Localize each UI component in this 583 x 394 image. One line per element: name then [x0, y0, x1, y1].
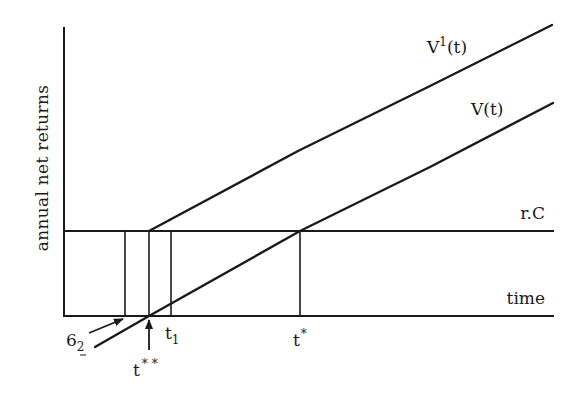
t-one-label: t1	[165, 323, 179, 347]
time-axis-label: time	[507, 288, 545, 308]
v1-curve	[149, 25, 552, 231]
v-curve	[95, 103, 553, 347]
diagram-figure: annual net returns time r.C V1(t) V(t) 6…	[0, 0, 583, 394]
v1-label: V1(t)	[426, 35, 467, 57]
rc-label: r.C	[520, 203, 545, 223]
six-two-label: 62	[66, 330, 84, 354]
six-two-arrow	[89, 319, 123, 333]
v-label: V(t)	[470, 99, 503, 119]
t-double-star-label: t* *	[133, 357, 158, 380]
y-axis-label: annual net returns	[32, 85, 52, 251]
t-star-label: t*	[293, 327, 307, 350]
